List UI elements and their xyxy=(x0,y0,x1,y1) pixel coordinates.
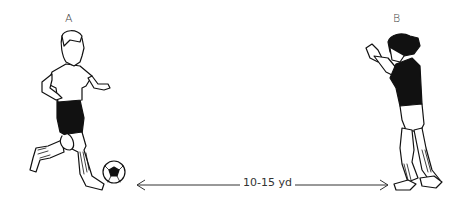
player-a-figure xyxy=(30,31,125,190)
distance-label: 10-15 yd xyxy=(240,176,295,189)
player-b-figure xyxy=(366,34,442,190)
drill-illustration xyxy=(0,0,469,201)
